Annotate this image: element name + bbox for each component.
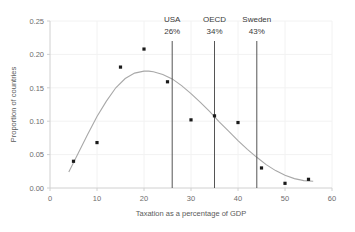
x-axis-title: Taxation as a percentage of GDP (136, 209, 246, 218)
xtick-label-50: 50 (281, 194, 289, 203)
data-point (260, 166, 263, 169)
xtick-label-20: 20 (140, 194, 148, 203)
y-axis-title: Proportion of countries (9, 67, 18, 143)
data-point (95, 141, 98, 144)
data-point (213, 114, 216, 117)
data-point (142, 47, 145, 50)
annotation-value-oecd: 34% (206, 27, 222, 36)
data-point (236, 121, 239, 124)
xtick-label-30: 30 (187, 194, 195, 203)
xtick-label-60: 60 (328, 194, 336, 203)
data-point (283, 182, 286, 185)
chart-figure: 0.25 0.20 0.15 0.10 0.05 0.00 0 10 20 30… (0, 0, 355, 232)
data-point (72, 160, 75, 163)
annotation-label-usa: USA (164, 15, 181, 24)
data-point (166, 80, 169, 83)
xtick-label-10: 10 (93, 194, 101, 203)
annotation-value-sweden: 43% (249, 27, 265, 36)
x-tick-labels: 0 10 20 30 40 50 60 (48, 194, 336, 203)
ytick-label-0.10: 0.10 (29, 117, 44, 126)
annotation-value-usa: 26% (164, 27, 180, 36)
ytick-label-0.05: 0.05 (29, 150, 44, 159)
y-tick-labels: 0.25 0.20 0.15 0.10 0.05 0.00 (29, 17, 44, 193)
ytick-label-0.25: 0.25 (29, 17, 44, 26)
ytick-label-0.00: 0.00 (29, 184, 44, 193)
annotation-label-oecd: OECD (203, 15, 226, 24)
data-point (119, 65, 122, 68)
ytick-label-0.15: 0.15 (29, 84, 44, 93)
ytick-label-0.20: 0.20 (29, 50, 44, 59)
xtick-label-0: 0 (48, 194, 52, 203)
xtick-label-40: 40 (234, 194, 242, 203)
axes (47, 21, 332, 191)
annotation-label-sweden: Sweden (242, 15, 271, 24)
gridlines (50, 21, 332, 188)
data-point (307, 178, 310, 181)
scatter-plot: 0.25 0.20 0.15 0.10 0.05 0.00 0 10 20 30… (0, 0, 355, 232)
data-point (189, 118, 192, 121)
annotation-labels: USA 26% OECD 34% Sweden 43% (164, 15, 271, 36)
